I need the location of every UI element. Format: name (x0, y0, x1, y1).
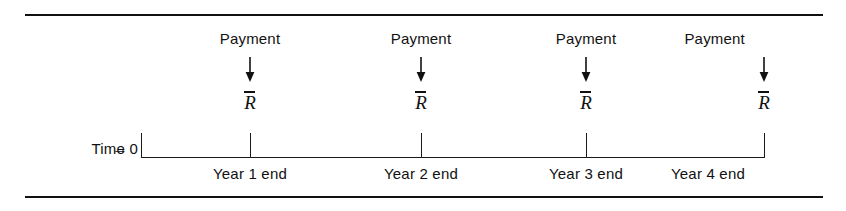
payment-label-year-4: Payment (605, 30, 745, 48)
rate-symbol-year-3: R (506, 91, 666, 114)
down-arrow-icon-year-1 (170, 57, 330, 83)
year-label-year-1: Year 1 end (170, 165, 330, 183)
rate-symbol-year-2: R (341, 91, 501, 114)
year-label-year-2: Year 2 end (341, 165, 501, 183)
rate-symbol-text-year-4: R (758, 91, 770, 114)
rate-symbol-text-year-2: R (415, 91, 427, 114)
down-arrow-icon-year-3 (506, 57, 666, 83)
down-arrow-icon-year-2 (341, 57, 501, 83)
axis-tick-origin (141, 133, 142, 158)
down-arrow-icon-year-4 (684, 57, 844, 83)
bottom-rule (25, 196, 823, 198)
right-arrow-icon: → (112, 140, 128, 157)
axis-tick-year-4 (764, 133, 765, 158)
axis-tick-year-3 (586, 133, 587, 158)
payment-label-year-2: Payment (341, 30, 501, 48)
payment-label-year-1: Payment (170, 30, 330, 48)
axis-tick-year-1 (250, 133, 251, 158)
rate-symbol-text-year-1: R (244, 91, 256, 114)
axis-tick-year-2 (421, 133, 422, 158)
rate-symbol-year-1: R (170, 91, 330, 114)
year-label-year-4: Year 4 end (605, 165, 745, 183)
top-rule (25, 14, 823, 16)
timeline-axis (141, 157, 765, 158)
rate-symbol-year-4: R (684, 91, 844, 114)
rate-symbol-text-year-3: R (580, 91, 592, 114)
timeline-figure: Time 0 → Payment R Year 1 end Payment (0, 0, 846, 211)
